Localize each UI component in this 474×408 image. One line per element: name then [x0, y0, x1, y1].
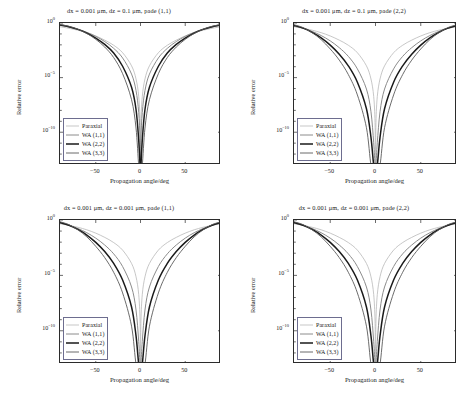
legend: ParaxialWA (1,1)WA (2,2)WA (3,3) — [297, 317, 342, 360]
panel-title: dx = 0.001 μm, dz = 0.1 μm, pade (1,1) — [6, 7, 232, 14]
plot-panel-top-right: dx = 0.001 μm, dz = 0.1 μm, pade (2,2)10… — [240, 4, 468, 202]
legend-item[interactable]: WA (1,1) — [66, 329, 104, 338]
legend-line-swatch — [300, 331, 313, 337]
x-axis-tick-label: 0 — [361, 366, 389, 373]
legend-item[interactable]: WA (1,1) — [300, 329, 338, 338]
y-axis-label: Relative error — [15, 80, 22, 115]
legend-label: Paraxial — [82, 123, 102, 129]
legend-item[interactable]: Paraxial — [300, 320, 338, 329]
y-axis-tick-label: 10−10 — [20, 127, 55, 133]
legend-label: WA (1,1) — [82, 331, 104, 337]
y-axis-label: Relative error — [15, 278, 22, 313]
y-axis-tick-label: 10−10 — [254, 325, 289, 331]
legend-label: WA (3,3) — [316, 150, 338, 156]
legend-line-swatch — [300, 150, 313, 156]
y-axis-tick-label: 100 — [20, 18, 55, 24]
legend-label: WA (2,2) — [82, 340, 104, 346]
legend-item[interactable]: WA (2,2) — [66, 139, 104, 148]
y-axis-tick-label: 100 — [20, 215, 55, 221]
x-axis-tick-label: 0 — [126, 167, 154, 174]
x-axis-tick-label: 0 — [361, 167, 389, 174]
legend-label: WA (2,2) — [316, 141, 338, 147]
legend-item[interactable]: Paraxial — [300, 121, 338, 130]
legend-label: WA (3,3) — [316, 349, 338, 355]
legend-line-swatch — [66, 322, 79, 328]
y-axis-tick-label: 10−5 — [254, 270, 289, 276]
x-axis-tick-label: 50 — [170, 167, 198, 174]
legend-line-swatch — [66, 150, 79, 156]
figure-root: dx = 0.001 μm, dz = 0.1 μm, pade (1,1)10… — [0, 0, 474, 408]
panel-title: dx = 0.001 μm, dz = 0.001 μm, pade (2,2) — [240, 204, 468, 211]
plot-panel-bottom-left: dx = 0.001 μm, dz = 0.001 μm, pade (1,1)… — [6, 201, 232, 401]
legend-item[interactable]: WA (2,2) — [66, 338, 104, 347]
legend-item[interactable]: WA (2,2) — [300, 139, 338, 148]
x-axis-tick-label: 50 — [406, 167, 434, 174]
y-axis-tick-label: 10−10 — [20, 325, 55, 331]
x-axis-tick-label: −50 — [315, 366, 343, 373]
legend-item[interactable]: Paraxial — [66, 320, 104, 329]
legend-label: WA (3,3) — [82, 150, 104, 156]
legend-line-swatch — [300, 322, 313, 328]
x-axis-tick-label: −50 — [81, 366, 109, 373]
legend: ParaxialWA (1,1)WA (2,2)WA (3,3) — [63, 118, 108, 161]
y-axis-tick-label: 10−10 — [254, 127, 289, 133]
x-axis-tick-label: 50 — [406, 366, 434, 373]
legend-line-swatch — [66, 132, 79, 138]
legend-item[interactable]: WA (2,2) — [300, 338, 338, 347]
y-axis-tick-label: 100 — [254, 18, 289, 24]
panel-title: dx = 0.001 μm, dz = 0.1 μm, pade (2,2) — [240, 7, 468, 14]
legend-label: WA (1,1) — [316, 132, 338, 138]
legend: ParaxialWA (1,1)WA (2,2)WA (3,3) — [297, 118, 342, 161]
legend-item[interactable]: WA (3,3) — [66, 149, 104, 158]
x-axis-label: Propagation angle/deg — [293, 376, 456, 383]
legend-line-swatch — [300, 132, 313, 138]
legend-label: WA (1,1) — [316, 331, 338, 337]
legend-label: WA (2,2) — [316, 340, 338, 346]
x-axis-tick-label: −50 — [315, 167, 343, 174]
x-axis-label: Propagation angle/deg — [293, 177, 456, 184]
legend-item[interactable]: WA (3,3) — [300, 149, 338, 158]
legend-item[interactable]: Paraxial — [66, 121, 104, 130]
legend-label: WA (1,1) — [82, 132, 104, 138]
legend-line-swatch — [66, 349, 79, 355]
legend-label: WA (3,3) — [82, 349, 104, 355]
legend-label: Paraxial — [82, 322, 102, 328]
legend-item[interactable]: WA (1,1) — [66, 130, 104, 139]
legend-line-swatch — [300, 340, 313, 346]
x-axis-tick-label: −50 — [81, 167, 109, 174]
y-axis-label: Relative error — [249, 278, 256, 313]
legend-line-swatch — [66, 123, 79, 129]
legend-item[interactable]: WA (1,1) — [300, 130, 338, 139]
legend-label: Paraxial — [316, 322, 336, 328]
legend: ParaxialWA (1,1)WA (2,2)WA (3,3) — [63, 317, 108, 360]
y-axis-tick-label: 100 — [254, 215, 289, 221]
legend-item[interactable]: WA (3,3) — [66, 348, 104, 357]
x-axis-tick-label: 50 — [170, 366, 198, 373]
legend-item[interactable]: WA (3,3) — [300, 348, 338, 357]
legend-line-swatch — [66, 331, 79, 337]
plot-panel-bottom-right: dx = 0.001 μm, dz = 0.001 μm, pade (2,2)… — [240, 201, 468, 401]
y-axis-label: Relative error — [249, 80, 256, 115]
y-axis-tick-label: 10−5 — [20, 72, 55, 78]
legend-line-swatch — [66, 141, 79, 147]
legend-line-swatch — [300, 141, 313, 147]
y-axis-tick-label: 10−5 — [20, 270, 55, 276]
legend-line-swatch — [300, 349, 313, 355]
plot-panel-top-left: dx = 0.001 μm, dz = 0.1 μm, pade (1,1)10… — [6, 4, 232, 202]
legend-label: Paraxial — [316, 123, 336, 129]
legend-line-swatch — [300, 123, 313, 129]
legend-label: WA (2,2) — [82, 141, 104, 147]
panel-title: dx = 0.001 μm, dz = 0.001 μm, pade (1,1) — [6, 204, 232, 211]
x-axis-label: Propagation angle/deg — [59, 177, 220, 184]
x-axis-tick-label: 0 — [126, 366, 154, 373]
legend-line-swatch — [66, 340, 79, 346]
x-axis-label: Propagation angle/deg — [59, 376, 220, 383]
y-axis-tick-label: 10−5 — [254, 72, 289, 78]
